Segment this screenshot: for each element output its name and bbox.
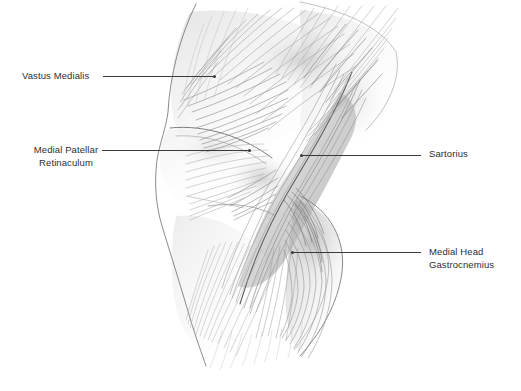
label-medial-patellar-retinaculum-line2: Retinaculum — [22, 157, 110, 170]
leader-dot-medial-patellar-retinaculum — [248, 149, 251, 152]
leader-vastus-medialis — [103, 76, 215, 77]
leader-dot-medial-head-gastrocnemius — [291, 251, 294, 254]
label-sartorius: Sartorius — [429, 148, 468, 161]
leader-medial-patellar-retinaculum — [102, 150, 250, 151]
label-medial-head-gastrocnemius: Medial Head Gastrocnemius — [429, 246, 494, 271]
label-medial-head-gastrocnemius-line1: Medial Head — [429, 246, 494, 259]
tonal-masses — [160, 10, 398, 357]
leader-dot-vastus-medialis — [213, 75, 216, 78]
label-medial-patellar-retinaculum: Medial Patellar Retinaculum — [22, 144, 110, 169]
label-vastus-medialis: Vastus Medialis — [22, 70, 89, 83]
figure-canvas: Vastus Medialis Medial Patellar Retinacu… — [0, 0, 521, 391]
label-medial-patellar-retinaculum-line1: Medial Patellar — [22, 144, 110, 157]
leader-sartorius — [301, 155, 421, 156]
leader-dot-sartorius — [300, 154, 303, 157]
anatomical-illustration — [0, 0, 521, 391]
label-medial-head-gastrocnemius-line2: Gastrocnemius — [429, 259, 494, 272]
leader-medial-head-gastrocnemius — [292, 252, 421, 253]
